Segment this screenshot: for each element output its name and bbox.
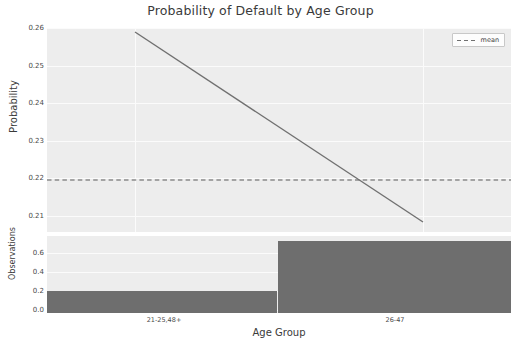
observations-bar-panel <box>47 236 511 313</box>
line-plot-panel: mean <box>47 28 511 232</box>
bar-26-47[interactable] <box>278 241 511 313</box>
probability-line <box>135 32 423 222</box>
legend[interactable]: mean <box>452 33 505 47</box>
line-plot-graphics <box>47 28 511 232</box>
legend-label-mean: mean <box>481 36 499 44</box>
y-tick-label: 0.0 <box>0 306 44 314</box>
y-axis-title-probability: Probability <box>8 47 19 167</box>
x-tick-label-group-1: 21-25,48+ <box>147 316 182 324</box>
chart-figure: Probability of Default by Age Group mean… <box>0 0 521 350</box>
y-tick-label: 0.26 <box>0 24 44 32</box>
chart-title: Probability of Default by Age Group <box>0 3 521 18</box>
y-axis-title-observations: Observations <box>8 204 17 304</box>
y-tick-label: 0.22 <box>0 174 44 182</box>
mean-line-swatch-icon <box>457 40 477 41</box>
bar-21-25-48plus[interactable] <box>47 291 277 313</box>
x-tick-label-group-2: 26-47 <box>386 316 405 324</box>
x-axis-title: Age Group <box>47 327 511 338</box>
